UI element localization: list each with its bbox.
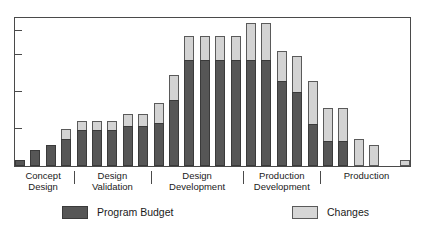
- bar-segment-changes: [354, 139, 364, 166]
- bar: [46, 145, 56, 166]
- bar: [292, 56, 302, 166]
- bar-segment-changes: [92, 121, 102, 130]
- bar-segment-changes: [369, 145, 379, 166]
- bar-segment-changes: [200, 36, 210, 60]
- phase-axis: ConceptDesignDesignValidationDesignDevel…: [14, 170, 411, 200]
- stacked-bar-chart: ConceptDesignDesignValidationDesignDevel…: [0, 0, 425, 241]
- bar: [215, 36, 225, 166]
- legend-item-changes: Changes: [292, 206, 369, 219]
- bar-segment-changes: [231, 36, 241, 60]
- chart-legend: Program Budget Changes: [0, 206, 425, 236]
- bar-segment-program-budget: [215, 60, 225, 166]
- bar-segment-changes: [323, 108, 333, 141]
- legend-label-changes: Changes: [327, 206, 369, 219]
- bar-segment-changes: [169, 75, 179, 100]
- bar: [338, 108, 348, 166]
- bar-segment-program-budget: [92, 130, 102, 166]
- bar-segment-changes: [77, 121, 87, 130]
- bar-segment-program-budget: [261, 60, 271, 166]
- bar-segment-program-budget: [292, 92, 302, 167]
- bar-segment-program-budget: [61, 139, 71, 166]
- bar-segment-changes: [308, 81, 318, 124]
- bar: [30, 150, 40, 166]
- phase-label-5: Production: [312, 170, 422, 181]
- legend-swatch-changes: [292, 206, 318, 219]
- bar-segment-program-budget: [15, 160, 25, 166]
- bar: [308, 81, 318, 166]
- bar-segment-program-budget: [308, 124, 318, 166]
- bar-segment-changes: [338, 108, 348, 141]
- bar-segment-program-budget: [154, 123, 164, 166]
- bar-segment-program-budget: [30, 150, 40, 166]
- bar: [354, 139, 364, 166]
- bar-segment-changes: [154, 103, 164, 122]
- bar: [184, 36, 194, 166]
- bar-segment-program-budget: [169, 100, 179, 166]
- bar: [200, 36, 210, 166]
- bar: [61, 129, 71, 166]
- bar-segment-program-budget: [46, 145, 56, 166]
- bar-segment-program-budget: [277, 81, 287, 166]
- clipped-chart-title: [0, 0, 425, 5]
- bar-segment-program-budget: [123, 126, 133, 166]
- bar: [277, 51, 287, 166]
- bar-segment-program-budget: [107, 130, 117, 166]
- bar: [369, 145, 379, 166]
- bar: [92, 121, 102, 166]
- bar: [400, 160, 410, 166]
- phase-label-line1: Production: [312, 170, 422, 181]
- bar-segment-program-budget: [338, 141, 348, 166]
- bar-segment-program-budget: [184, 60, 194, 166]
- legend-label-program-budget: Program Budget: [97, 206, 173, 219]
- bar: [138, 114, 148, 166]
- bar: [107, 121, 117, 166]
- bar-segment-changes: [292, 56, 302, 92]
- bar-segment-changes: [215, 36, 225, 60]
- bar: [123, 114, 133, 166]
- bar-segment-program-budget: [138, 126, 148, 166]
- legend-item-program-budget: Program Budget: [62, 206, 173, 219]
- bar-segment-changes: [123, 114, 133, 126]
- bar-series-group: [15, 17, 410, 166]
- bar-segment-program-budget: [77, 130, 87, 166]
- bar-segment-changes: [277, 51, 287, 81]
- legend-swatch-program-budget: [62, 206, 88, 219]
- bar-segment-changes: [246, 23, 256, 60]
- bar-segment-changes: [400, 160, 410, 166]
- bar: [246, 23, 256, 166]
- bar-segment-program-budget: [231, 60, 241, 166]
- bar-segment-program-budget: [323, 141, 333, 166]
- bar-segment-changes: [261, 23, 271, 60]
- bar: [261, 23, 271, 166]
- bar: [15, 160, 25, 166]
- bar: [77, 121, 87, 166]
- bar-segment-changes: [184, 36, 194, 60]
- bar: [169, 75, 179, 166]
- bar-segment-changes: [61, 129, 71, 139]
- bar-segment-changes: [138, 114, 148, 126]
- bar-segment-changes: [107, 121, 117, 130]
- bar: [154, 103, 164, 166]
- bar: [231, 36, 241, 166]
- bar-segment-program-budget: [246, 60, 256, 166]
- bar: [323, 108, 333, 166]
- bar-segment-program-budget: [200, 60, 210, 166]
